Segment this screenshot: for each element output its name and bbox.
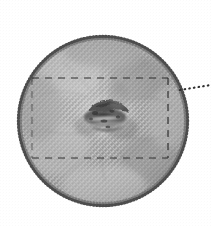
figure-panel: Before (0, 0, 211, 226)
paper-grain-overlay (0, 0, 211, 226)
specimen-image (0, 0, 211, 226)
